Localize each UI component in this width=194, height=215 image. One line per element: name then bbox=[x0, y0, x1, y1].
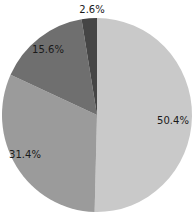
slice-label: 31.4% bbox=[9, 149, 41, 160]
slice-label: 50.4% bbox=[157, 115, 189, 126]
slice-label: 2.6% bbox=[79, 4, 104, 15]
pie-chart: 50.4%31.4%15.6%2.6% bbox=[0, 0, 194, 215]
slice-label: 15.6% bbox=[32, 44, 64, 55]
